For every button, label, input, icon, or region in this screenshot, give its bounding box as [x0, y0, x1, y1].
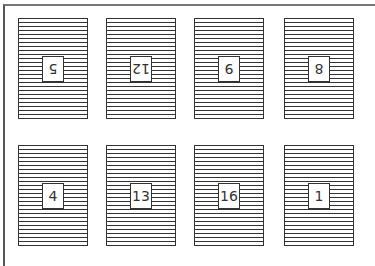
card-label: 8 — [308, 56, 330, 82]
card-label: 4 — [42, 183, 64, 209]
card-2: 12 — [106, 18, 176, 119]
card-3: 9 — [194, 18, 264, 119]
card-label: 12 — [130, 56, 152, 82]
card-7: 16 — [194, 145, 264, 246]
card-1: 5 — [18, 18, 88, 119]
card-5: 4 — [18, 145, 88, 246]
card-8: 1 — [284, 145, 354, 246]
card-label: 16 — [218, 183, 240, 209]
card-label: 13 — [130, 183, 152, 209]
card-6: 13 — [106, 145, 176, 246]
card-label: 9 — [218, 56, 240, 82]
card-label: 1 — [308, 183, 330, 209]
card-4: 8 — [284, 18, 354, 119]
card-label: 5 — [42, 56, 64, 82]
